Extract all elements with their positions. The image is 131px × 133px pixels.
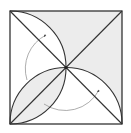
center-point [64,66,67,69]
geometry-diagram [0,0,131,133]
